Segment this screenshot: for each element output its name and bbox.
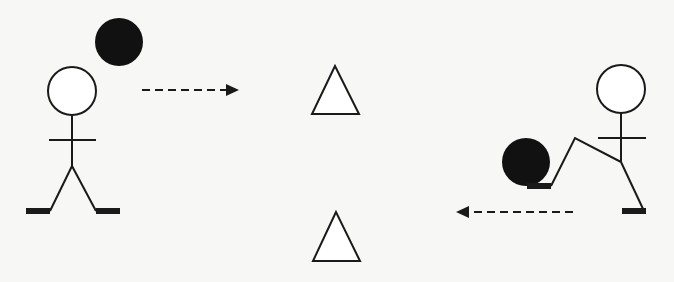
left-player-right-leg bbox=[72, 166, 96, 211]
pass-arrow-left bbox=[456, 206, 573, 218]
left-player-left-leg bbox=[50, 166, 72, 211]
ball-icon bbox=[95, 18, 143, 66]
left-player-figure bbox=[26, 67, 120, 214]
left-player-right-foot bbox=[96, 208, 120, 214]
diagram-svg bbox=[0, 0, 674, 282]
left-player-left-foot bbox=[26, 208, 50, 214]
ball-icon bbox=[502, 138, 550, 186]
arrowhead-right-icon bbox=[226, 84, 239, 96]
right-player-standing-leg bbox=[621, 162, 644, 211]
left-player-head bbox=[48, 67, 96, 115]
drill-diagram: Soccer passing drill: two players pass a… bbox=[0, 0, 674, 282]
right-player-figure bbox=[551, 65, 646, 214]
arrowhead-left-icon bbox=[456, 206, 469, 218]
right-player-standing-foot bbox=[622, 208, 646, 214]
right-player-head bbox=[597, 65, 645, 113]
pass-arrow-right bbox=[142, 84, 239, 96]
cone-bottom-icon bbox=[313, 212, 360, 261]
right-player-kicking-foot bbox=[527, 183, 551, 189]
right-player-kicking-leg bbox=[551, 138, 621, 186]
cone-top-icon bbox=[312, 66, 359, 114]
